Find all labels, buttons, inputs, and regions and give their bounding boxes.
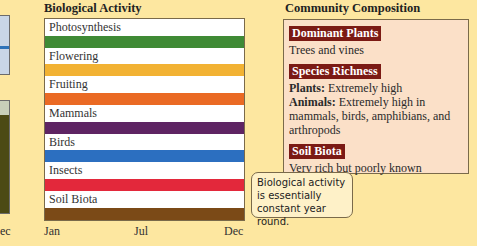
bold-label: Animals: [289,95,336,109]
chart-header-band [0,101,9,115]
row-label: Insects [49,163,82,178]
row-label: Soil Biota [49,192,97,207]
section-tag: Dominant Plants [289,26,381,41]
row-label: Flowering [49,49,98,64]
activity-bar [45,122,244,134]
activity-bar [45,93,244,105]
activity-row: Mammals [45,105,244,134]
temperature-line [0,46,9,49]
activity-bar [45,150,244,162]
x-tick-jan: Jan [44,224,60,239]
section-tag: Species Richness [289,64,381,79]
row-label: Fruiting [49,77,88,92]
activity-row: Birds [45,134,244,163]
row-label: Photosynthesis [49,20,121,35]
section-text: Trees and vines [289,43,463,57]
bold-label: Plants: [289,81,325,95]
x-tick-jul: Jul [134,224,148,239]
section-tag: Soil Biota [289,144,345,159]
activity-bar [45,36,244,48]
row-label: Mammals [49,106,97,121]
x-tick-dec: Dec [224,224,243,239]
activity-row: Soil Biota [45,191,244,220]
activity-bar [45,64,244,76]
community-panel: Dominant Plants Trees and vines Species … [283,19,469,174]
activity-row: Flowering [45,48,244,77]
callout-note: Biological activity is essentially const… [251,172,353,218]
activity-row: Insects [45,162,244,191]
text-line: Extremely high [325,81,402,95]
activity-row: Photosynthesis [45,19,244,48]
section-text: Plants: Extremely high Animals: Extremel… [289,81,463,137]
biological-activity-chart: Photosynthesis Flowering Fruiting Mammal… [44,18,245,221]
community-title: Community Composition [285,1,420,16]
activity-bar [45,208,244,220]
partial-climate-chart [0,15,10,75]
activity-row: Fruiting [45,76,244,105]
text-line: Trees and vines [289,43,364,57]
row-label: Birds [49,135,75,150]
chart-title: Biological Activity [44,1,142,16]
partial-axis-label: ec [0,224,11,239]
partial-precipitation-chart [0,100,10,214]
activity-bar [45,179,244,191]
